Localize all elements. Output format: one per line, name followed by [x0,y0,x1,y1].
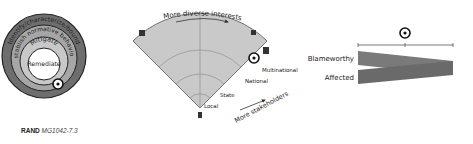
level-state: State [220,92,235,98]
level-national: National [245,78,268,84]
crowd-icon [263,47,269,54]
group-person-icon [139,30,145,36]
diagram-canvas: Identify/characterize/bound Establish no… [0,0,473,144]
stakeholder-fan: More diverse interests Local State Natio… [133,9,298,124]
person-icon [198,112,202,118]
figure-caption: RAND MG1042-7.3 [21,127,78,134]
target-icon [249,53,259,63]
blame-affected-bars: Blameworthy Affected [308,28,453,84]
group-person-icon [251,30,256,35]
level-multinational: Multinational [262,67,298,73]
level-local: Local [204,103,219,109]
caption-id: MG1042-7.3 [42,127,78,134]
target-icon [400,28,410,38]
label-more-stakeholders: More stakeholders [233,89,290,124]
caption-org: RAND [21,127,40,134]
target-icon [53,79,63,89]
concentric-rings: Identify/characterize/bound Establish no… [0,0,86,98]
label-affected: Affected [325,74,354,82]
ring-label-remediate: Remediate [27,60,61,67]
label-blameworthy: Blameworthy [308,55,354,63]
